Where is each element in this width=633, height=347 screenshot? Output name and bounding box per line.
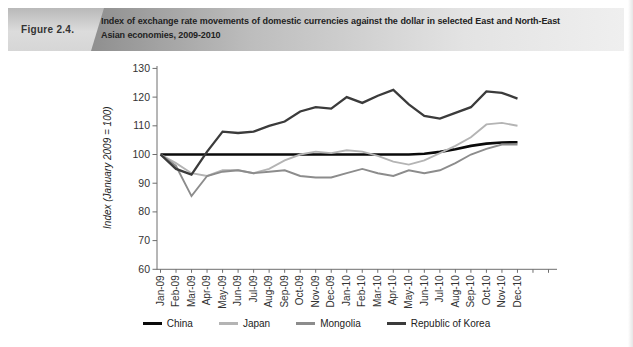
y-tick-label: 130 [132, 62, 150, 74]
figure-page: Figure 2.4. Index of exchange rate movem… [0, 0, 633, 347]
x-tick-label: Jan-10 [341, 275, 352, 306]
y-tick-label: 120 [132, 91, 150, 103]
x-tick-label: Mar-10 [372, 275, 383, 307]
y-tick-label: 110 [133, 119, 150, 131]
x-tick-label: Apr-10 [388, 275, 399, 305]
exchange-rate-line-chart: 60708090100110120130Jan-09Feb-09Mar-09Ap… [0, 55, 633, 347]
series-line-republic-of-korea [161, 90, 518, 175]
x-tick-label: Dec-10 [512, 275, 523, 308]
legend-label-japan: Japan [243, 318, 270, 329]
series-line-japan [161, 123, 518, 176]
x-tick-label: Dec-09 [325, 275, 336, 308]
legend-line-swatch-japan [219, 322, 238, 324]
figure-title: Index of exchange rate movements of dome… [91, 8, 624, 51]
x-tick-label: Jan-09 [155, 275, 166, 306]
x-tick-label: Feb-10 [356, 275, 367, 307]
x-tick-label: May-10 [403, 275, 414, 309]
x-tick-label: Jun-10 [419, 275, 430, 306]
x-tick-label: Sep-09 [279, 275, 290, 308]
figure-header: Figure 2.4. Index of exchange rate movem… [8, 8, 624, 51]
x-tick-label: Jun-09 [232, 275, 243, 306]
x-tick-label: Jul-09 [248, 275, 259, 303]
legend-item-republic-of-korea: Republic of Korea [387, 318, 491, 329]
x-tick-label: Aug-09 [263, 275, 274, 308]
y-tick-label: 60 [138, 263, 150, 275]
y-axis-title: Index (January 2009 = 100) [102, 106, 113, 229]
x-tick-label: Oct-10 [481, 275, 492, 305]
legend-line-swatch-republic-of-korea [387, 322, 406, 324]
x-tick-label: Feb-09 [170, 275, 181, 307]
legend-label-mongolia: Mongolia [320, 318, 361, 329]
x-tick-label: Oct-09 [294, 275, 305, 305]
x-tick-label: May-09 [217, 275, 228, 309]
legend-label-republic-of-korea: Republic of Korea [411, 318, 491, 329]
y-tick-label: 90 [138, 177, 150, 189]
y-tick-label: 80 [138, 205, 150, 217]
x-tick-label: Sep-10 [465, 275, 476, 308]
figure-number-label: Figure 2.4. [8, 8, 104, 51]
x-tick-label: Aug-10 [450, 275, 461, 308]
x-tick-label: Apr-09 [201, 275, 212, 305]
legend-label-china: China [167, 318, 193, 329]
legend-line-swatch-china [143, 322, 162, 324]
legend-item-japan: Japan [219, 318, 270, 329]
x-tick-label: Mar-09 [186, 275, 197, 307]
legend-item-china: China [143, 318, 193, 329]
chart-legend: ChinaJapanMongoliaRepublic of Korea [0, 318, 633, 329]
legend-line-swatch-mongolia [296, 322, 315, 324]
y-tick-label: 70 [138, 234, 150, 246]
x-tick-label: Jul-10 [434, 275, 445, 303]
x-tick-label: Nov-10 [496, 275, 507, 308]
y-tick-label: 100 [132, 148, 150, 160]
legend-item-mongolia: Mongolia [296, 318, 361, 329]
x-tick-label: Nov-09 [310, 275, 321, 308]
